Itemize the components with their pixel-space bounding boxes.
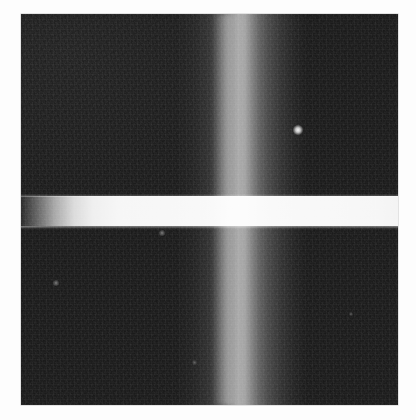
detector-frame: [21, 14, 398, 405]
figure-root: Grayscale detector frame: [0, 0, 416, 420]
noise-layer-dark: [21, 14, 398, 405]
image-title: Grayscale detector frame: [0, 0, 1, 1]
